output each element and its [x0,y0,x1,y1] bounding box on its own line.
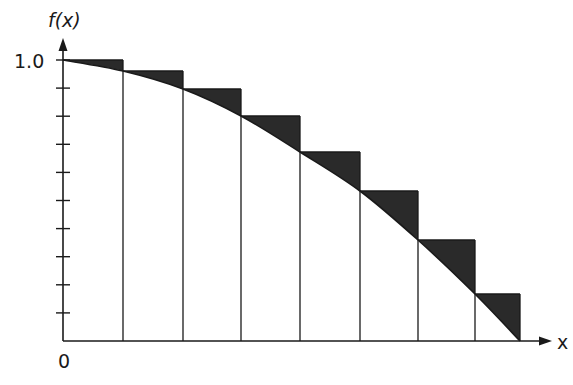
origin-label: 0 [58,350,70,372]
function-curve [63,60,520,341]
x-axis-label: x [557,331,568,353]
y-max-label: 1.0 [14,50,44,72]
riemann-sum-diagram: f(x) 1.0 0 x [0,0,573,385]
rectangle-outlines [63,60,520,341]
shaded-excess-regions [63,60,520,341]
x-axis-arrow-icon [539,337,552,346]
y-axis-arrow-icon [59,38,68,51]
y-axis-label: f(x) [48,9,81,31]
